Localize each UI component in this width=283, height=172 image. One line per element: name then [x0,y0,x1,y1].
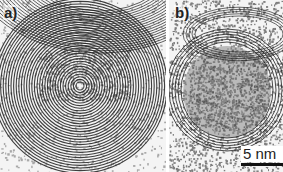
scale-bar-line [241,163,283,166]
scale-bar: 5 nm [241,146,283,166]
scale-bar-label: 5 nm [241,146,283,162]
panel-a-label: a) [3,5,18,20]
panel-a-micrograph: a) [0,0,166,172]
concentric-shells-image [0,0,166,172]
panel-b-label: b) [174,5,190,20]
panel-b-micrograph: b) 5 nm [169,0,283,172]
